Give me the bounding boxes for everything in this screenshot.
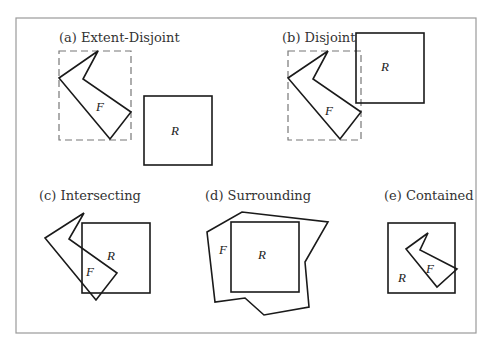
region-label: R xyxy=(257,247,266,262)
feature-polygon xyxy=(406,233,457,287)
region-label: R xyxy=(380,59,389,74)
region-label: R xyxy=(106,248,115,263)
panel-title: (d) Surrounding xyxy=(205,188,311,203)
panel-contained: (e) Contained F R xyxy=(384,188,474,293)
region-label: R xyxy=(170,123,179,138)
feature-polygon xyxy=(59,51,131,139)
region-square xyxy=(82,223,150,293)
panel-extent-disjoint: (a) Extent-Disjoint F R xyxy=(59,30,212,165)
feature-label: F xyxy=(218,242,228,257)
panel-disjoint: (b) Disjoint F R xyxy=(282,30,424,140)
region-square xyxy=(356,33,424,103)
spatial-relations-figure: (a) Extent-Disjoint F R (b) Disjoint F R… xyxy=(0,0,490,340)
feature-polygon xyxy=(207,212,328,315)
region-label: R xyxy=(397,270,406,285)
feature-label: F xyxy=(85,264,95,279)
panel-intersecting: (c) Intersecting R F xyxy=(39,188,150,300)
feature-label: F xyxy=(425,261,435,276)
feature-polygon xyxy=(288,51,361,139)
panel-title: (c) Intersecting xyxy=(39,188,141,203)
panel-title: (b) Disjoint xyxy=(282,30,356,45)
panel-title: (a) Extent-Disjoint xyxy=(59,30,180,45)
feature-label: F xyxy=(95,99,105,114)
feature-label: F xyxy=(324,103,334,118)
panel-surrounding: (d) Surrounding F R xyxy=(205,188,328,315)
panel-title: (e) Contained xyxy=(384,188,474,203)
